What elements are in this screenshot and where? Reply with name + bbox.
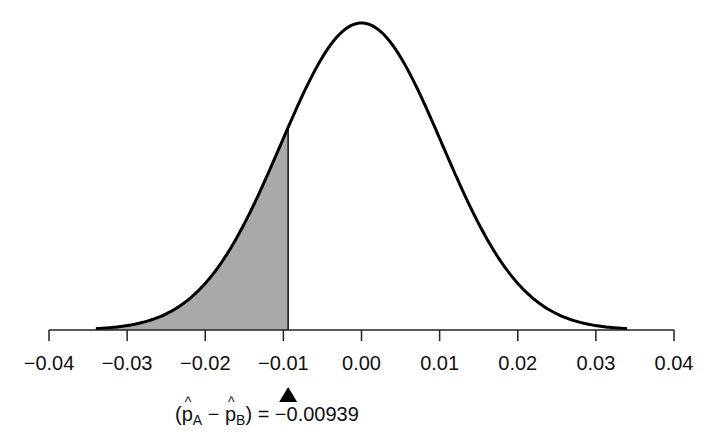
shaded-tail-area	[96, 127, 288, 330]
p-hat-b: p	[225, 403, 236, 426]
x-tick-label: 0.02	[498, 352, 537, 375]
x-tick-label: 0.01	[420, 352, 459, 375]
normal-curve-chart	[0, 0, 716, 446]
p-hat-a: p	[182, 403, 193, 426]
x-tick-label: −0.04	[24, 352, 75, 375]
x-tick-label: −0.03	[102, 352, 153, 375]
observed-difference-annotation: (pA − pB) = −0.00939	[175, 403, 359, 428]
x-tick-label: 0.03	[576, 352, 615, 375]
observed-difference-value: = −0.00939	[258, 403, 359, 425]
x-tick-label: −0.01	[258, 352, 309, 375]
x-tick-label: 0.00	[342, 352, 381, 375]
x-axis-ticks	[49, 330, 674, 341]
x-tick-label: −0.02	[180, 352, 231, 375]
x-tick-label: 0.04	[655, 352, 694, 375]
triangle-marker-icon	[279, 387, 297, 402]
normal-curve	[96, 23, 627, 329]
